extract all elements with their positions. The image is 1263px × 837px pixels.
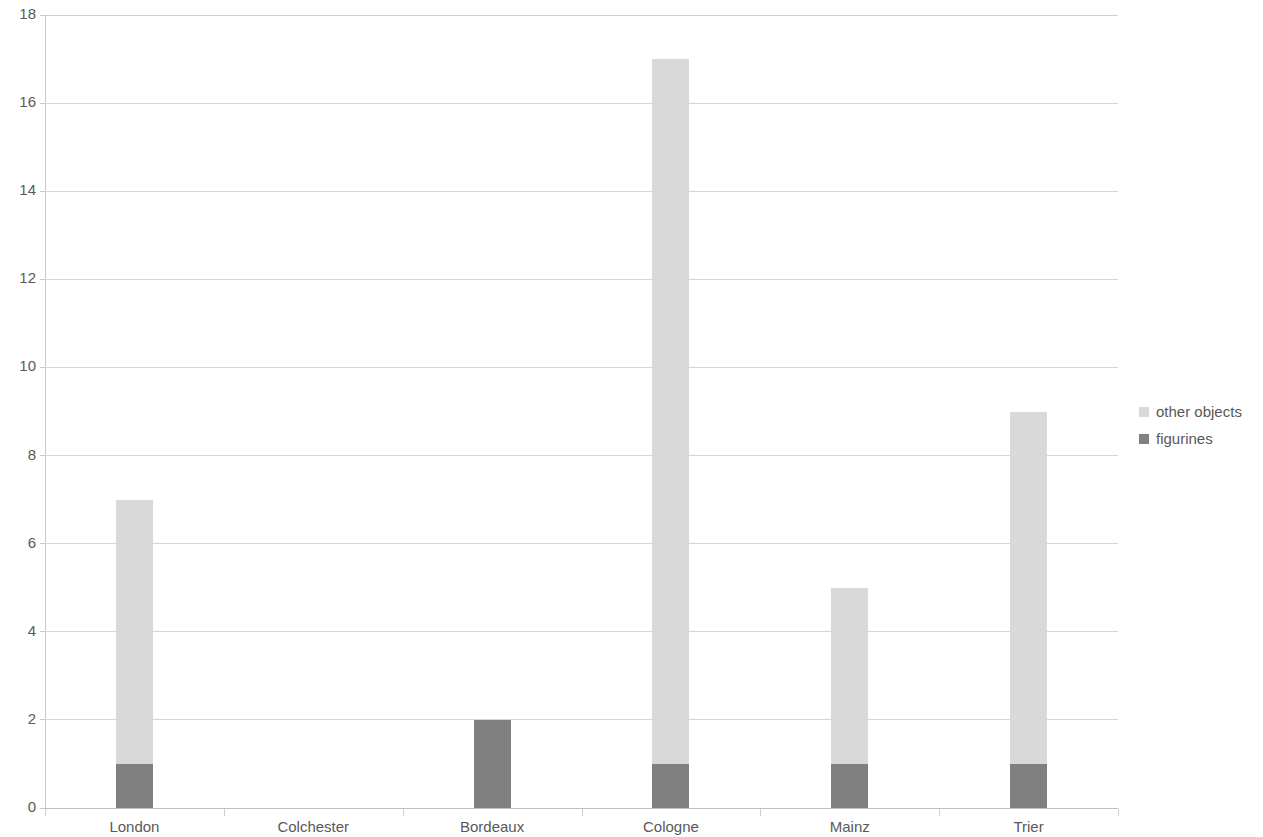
y-axis-tick-label: 8 xyxy=(0,446,36,463)
bar-column[interactable] xyxy=(1010,15,1047,808)
x-axis-separator xyxy=(939,809,940,816)
bar-segment-figurines[interactable] xyxy=(474,720,511,808)
y-axis-tick-label: 14 xyxy=(0,181,36,198)
y-axis-tick-label: 10 xyxy=(0,357,36,374)
x-axis-separator xyxy=(403,809,404,816)
x-axis-separator xyxy=(224,809,225,816)
y-axis-tick-label: 16 xyxy=(0,93,36,110)
bar-column[interactable] xyxy=(295,15,332,808)
x-axis-tick-label: Bordeaux xyxy=(403,818,582,835)
bar-segment-figurines[interactable] xyxy=(831,764,868,808)
bar-column[interactable] xyxy=(116,15,153,808)
x-axis-tick-label: Colchester xyxy=(224,818,403,835)
x-axis-separator xyxy=(760,809,761,816)
x-axis-separator xyxy=(45,809,46,816)
x-axis-separator xyxy=(1118,809,1119,816)
y-axis-tick-label: 6 xyxy=(0,534,36,551)
bar-column[interactable] xyxy=(474,15,511,808)
y-axis-tick-label: 18 xyxy=(0,5,36,22)
legend-label: figurines xyxy=(1156,430,1213,447)
y-axis-tick-label: 2 xyxy=(0,710,36,727)
bar-segment-other-objects[interactable] xyxy=(1010,412,1047,764)
bar-column[interactable] xyxy=(831,15,868,808)
x-axis-tick-label: Mainz xyxy=(760,818,939,835)
x-axis-tick-label: Trier xyxy=(939,818,1118,835)
bar-segment-figurines[interactable] xyxy=(1010,764,1047,808)
y-axis-tick-label: 4 xyxy=(0,622,36,639)
legend-swatch-icon xyxy=(1139,407,1149,417)
y-axis-tick-label: 12 xyxy=(0,269,36,286)
legend-label: other objects xyxy=(1156,403,1242,420)
plot-area xyxy=(45,15,1118,808)
bar-column[interactable] xyxy=(652,15,689,808)
chart-legend: other objectsfigurines xyxy=(1139,398,1263,452)
x-axis-tick-label: Cologne xyxy=(582,818,761,835)
bar-segment-other-objects[interactable] xyxy=(831,588,868,764)
bar-segment-other-objects[interactable] xyxy=(116,500,153,764)
bar-segment-other-objects[interactable] xyxy=(652,59,689,764)
bar-segment-figurines[interactable] xyxy=(652,764,689,808)
legend-item[interactable]: other objects xyxy=(1139,398,1263,425)
legend-item[interactable]: figurines xyxy=(1139,425,1263,452)
x-axis-separator xyxy=(582,809,583,816)
stacked-bar-chart: 024681012141618 LondonColchesterBordeaux… xyxy=(0,0,1263,837)
bar-segment-figurines[interactable] xyxy=(116,764,153,808)
legend-swatch-icon xyxy=(1139,434,1149,444)
y-axis-tick-label: 0 xyxy=(0,798,36,815)
x-axis-tick-label: London xyxy=(45,818,224,835)
